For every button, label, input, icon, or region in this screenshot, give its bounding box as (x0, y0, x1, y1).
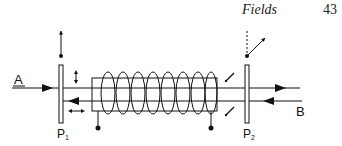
coil-terminal-right (209, 126, 214, 131)
beam-forward-arrow-icon (275, 84, 286, 92)
polarization-arrows-p1 (68, 70, 85, 113)
polarization-arrows-p2 (225, 73, 234, 116)
polarizer-p1-label: P1 (57, 127, 69, 141)
polarizer-p2-label: P2 (243, 127, 255, 141)
beam-b-arrow-icon (263, 97, 274, 105)
polarizer-p1 (59, 31, 63, 123)
beam-return-arrow-icon (68, 97, 79, 105)
beam-label-a: A (14, 72, 23, 87)
beam-lines (12, 84, 302, 105)
beam-a-arrow-icon (42, 84, 53, 92)
beam-label-b: B (296, 104, 305, 119)
polarizer-p2 (245, 31, 265, 123)
coil-terminal-left (96, 126, 101, 131)
faraday-rotation-diagram: A B P1 (0, 0, 342, 146)
